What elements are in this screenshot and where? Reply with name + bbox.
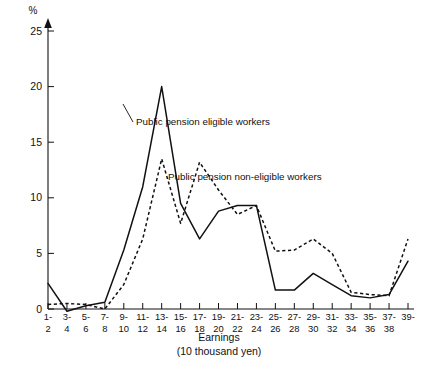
- x-tick-label-bottom: 30: [308, 323, 318, 334]
- y-axis-arrow-icon: [44, 18, 52, 28]
- x-tick-label-top: 31-: [325, 311, 339, 322]
- x-tick-label-bottom: 16: [175, 323, 185, 334]
- x-tick-label-top: 39-: [401, 311, 415, 322]
- line-chart: % 0510152025 1-23-45-67-89-1011-1213-141…: [0, 0, 421, 369]
- y-axis-unit-label: %: [29, 5, 38, 16]
- x-tick-label-bottom: 34: [346, 323, 356, 334]
- x-tick-label-top: 11-: [136, 311, 149, 322]
- y-axis: % 0510152025: [29, 5, 54, 315]
- y-tick-label: 0: [36, 303, 42, 315]
- x-axis: 1-23-45-67-89-1011-1213-1415-1617-1819-2…: [44, 303, 415, 357]
- x-tick-label-top: 37-: [382, 311, 396, 322]
- y-tick-label: 10: [30, 191, 42, 203]
- x-tick-label-bottom: 38: [384, 323, 394, 334]
- x-tick-label-bottom: 8: [102, 323, 107, 334]
- x-tick-label-bottom: 14: [156, 323, 166, 334]
- x-tick-label-top: 7-: [101, 311, 109, 322]
- x-tick-label-bottom: 36: [365, 323, 375, 334]
- x-tick-label-top: 33-: [344, 311, 358, 322]
- x-tick-label-bottom: 12: [138, 323, 148, 334]
- x-tick-label-bottom: 26: [270, 323, 280, 334]
- y-tick-label: 25: [30, 25, 42, 37]
- x-tick-label-bottom: 24: [251, 323, 261, 334]
- x-tick-label-bottom: 32: [327, 323, 337, 334]
- y-tick-labels: 0510152025: [30, 25, 42, 315]
- x-tick-label-bottom: 6: [83, 323, 88, 334]
- x-tick-label-bottom: 4: [64, 323, 69, 334]
- x-axis-title: Earnings: [198, 331, 239, 343]
- y-tick-label: 15: [30, 136, 42, 148]
- x-tick-label-top: 35-: [363, 311, 377, 322]
- x-tick-label-bottom: 2: [45, 323, 50, 334]
- y-tick-label: 20: [30, 80, 42, 92]
- x-tick-label-top: 19-: [212, 311, 226, 322]
- x-tick-label-top: 27-: [288, 311, 302, 322]
- x-tick-label-top: 1-: [44, 311, 52, 322]
- x-tick-label-top: 3-: [63, 311, 71, 322]
- leader-line-eligible: [123, 104, 133, 122]
- series-annotations: Public pension eligible workers Public p…: [123, 104, 322, 182]
- y-tick-label: 5: [36, 247, 42, 259]
- x-tick-label-top: 13-: [155, 311, 169, 322]
- x-tick-label-top: 25-: [269, 311, 283, 322]
- x-tick-label-top: 5-: [82, 311, 90, 322]
- x-tick-label-bottom: 28: [289, 323, 299, 334]
- x-tick-label-top: 17-: [193, 311, 207, 322]
- y-tick-marks: [48, 31, 54, 309]
- x-tick-label-top: 9-: [120, 311, 128, 322]
- x-tick-label-top: 15-: [174, 311, 188, 322]
- x-tick-label-top: 23-: [250, 311, 264, 322]
- series-label-eligible: Public pension eligible workers: [136, 116, 270, 127]
- chart-container: % 0510152025 1-23-45-67-89-1011-1213-141…: [0, 0, 421, 369]
- x-tick-label-bottom: 10: [119, 323, 129, 334]
- x-axis-subtitle: (10 thousand yen): [177, 345, 262, 357]
- x-tick-label-top: 29-: [306, 311, 320, 322]
- x-tick-label-top: 21-: [231, 311, 245, 322]
- series-label-non-eligible: Public pension non-eligible workers: [168, 171, 322, 182]
